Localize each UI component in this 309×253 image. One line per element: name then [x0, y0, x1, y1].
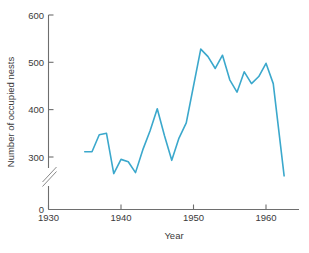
x-tick-label-1950: 1950	[183, 212, 204, 223]
chart-figure: 600 500 400 300 0 1930 1940 1950 1960 Ye…	[0, 0, 309, 253]
data-series-line	[85, 49, 284, 176]
x-tick-label-1930: 1930	[38, 212, 59, 223]
axis-break-slash-lower	[43, 167, 57, 182]
x-tick-label-1940: 1940	[110, 212, 131, 223]
axis-break-slash-upper	[43, 172, 57, 187]
x-tick-label-1960: 1960	[255, 212, 276, 223]
x-axis-title: Year	[164, 230, 183, 241]
y-tick-label-500: 500	[28, 57, 44, 68]
y-tick-label-300: 300	[28, 152, 44, 163]
line-chart-svg: 600 500 400 300 0 1930 1940 1950 1960 Ye…	[0, 0, 309, 253]
y-tick-label-400: 400	[28, 104, 44, 115]
y-axis-title: Number of occupied nests	[5, 57, 16, 168]
y-tick-label-600: 600	[28, 10, 44, 21]
